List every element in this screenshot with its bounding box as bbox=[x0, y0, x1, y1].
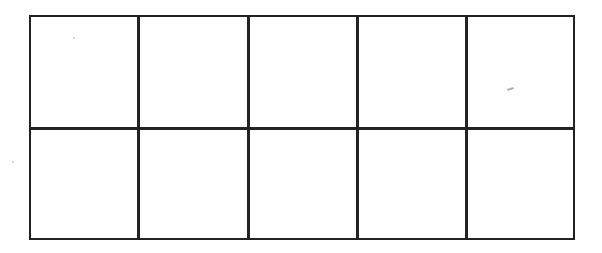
scan-speck bbox=[73, 37, 75, 39]
scan-speck bbox=[12, 161, 14, 163]
cell-r1-c2 bbox=[140, 17, 247, 127]
cell-r1-c3 bbox=[250, 17, 356, 127]
cell-r1-c4 bbox=[359, 17, 465, 127]
cell-r2-c3 bbox=[250, 130, 356, 238]
cell-r1-c1 bbox=[31, 17, 137, 127]
cell-r2-c1 bbox=[31, 130, 137, 238]
cell-r1-c5 bbox=[468, 17, 573, 127]
cell-r2-c5 bbox=[468, 130, 573, 238]
cell-r2-c2 bbox=[140, 130, 247, 238]
cell-r2-c4 bbox=[359, 130, 465, 238]
